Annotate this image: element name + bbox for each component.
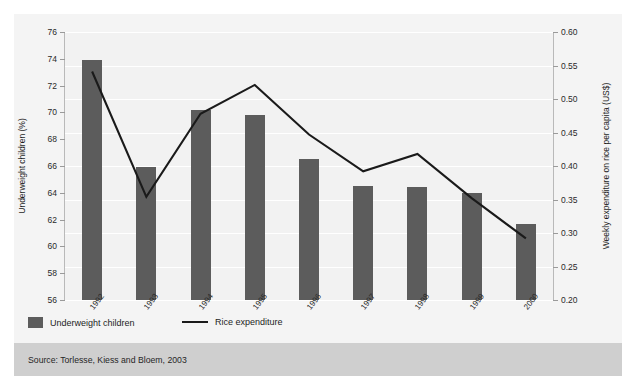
- rice-expenditure-line: [92, 72, 526, 239]
- right-tick-mark: [553, 233, 558, 234]
- left-tick-label: 60: [48, 242, 57, 251]
- left-tick-label: 56: [48, 296, 57, 305]
- figure-panel: Underweight children (%) Weekly expendit…: [14, 14, 622, 376]
- left-tick-mark: [60, 300, 65, 301]
- source-band: Source: Torlesse, Kiess and Bloem, 2003: [14, 343, 622, 376]
- chart-legend: Underweight children Rice expenditure: [14, 314, 622, 338]
- right-tick-mark: [553, 99, 558, 100]
- left-tick-label: 74: [48, 55, 57, 64]
- right-tick-label: 0.25: [561, 262, 578, 271]
- right-tick-label: 0.40: [561, 162, 578, 171]
- right-tick-label: 0.45: [561, 128, 578, 137]
- plot-container: Underweight children (%) Weekly expendit…: [14, 14, 622, 326]
- legend-item-rice-expenditure: Rice expenditure: [182, 317, 283, 327]
- plot-area: 5658606264666870727476 0.200.250.300.350…: [64, 32, 554, 301]
- left-tick-label: 58: [48, 269, 57, 278]
- right-tick-mark: [553, 300, 558, 301]
- right-tick-label: 0.50: [561, 95, 578, 104]
- right-axis-title: Weekly expenditure on rice per capita (U…: [601, 83, 611, 250]
- left-tick-label: 64: [48, 189, 57, 198]
- right-tick-label: 0.30: [561, 229, 578, 238]
- right-tick-label: 0.20: [561, 296, 578, 305]
- left-tick-label: 76: [48, 28, 57, 37]
- legend-label-rice-expenditure: Rice expenditure: [215, 317, 283, 327]
- right-tick-mark: [553, 32, 558, 33]
- right-tick-mark: [553, 200, 558, 201]
- left-tick-label: 68: [48, 135, 57, 144]
- bar-swatch-icon: [28, 317, 43, 328]
- legend-label-underweight-children: Underweight children: [50, 318, 135, 328]
- line-swatch-icon: [182, 321, 208, 324]
- right-tick-label: 0.35: [561, 195, 578, 204]
- legend-item-underweight-children: Underweight children: [28, 317, 135, 328]
- left-axis-title: Underweight children (%): [17, 118, 27, 213]
- left-tick-label: 70: [48, 108, 57, 117]
- right-tick-label: 0.60: [561, 28, 578, 37]
- right-tick-mark: [553, 267, 558, 268]
- left-tick-label: 66: [48, 162, 57, 171]
- line-series: [65, 32, 553, 300]
- source-note: Source: Torlesse, Kiess and Bloem, 2003: [28, 355, 187, 365]
- right-tick-mark: [553, 133, 558, 134]
- left-tick-label: 72: [48, 81, 57, 90]
- left-tick-label: 62: [48, 215, 57, 224]
- right-tick-mark: [553, 66, 558, 67]
- right-tick-mark: [553, 166, 558, 167]
- right-tick-label: 0.55: [561, 61, 578, 70]
